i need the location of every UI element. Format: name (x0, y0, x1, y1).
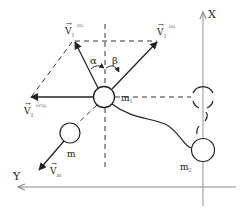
collision-diagram: X Y α β (0, 0, 249, 209)
svg-text:m: m (67, 149, 76, 159)
body-m1 (94, 87, 115, 108)
body-m (60, 123, 80, 143)
label-v1-left-ini: V1ini. → (64, 20, 85, 38)
label-vm: Vm → (49, 160, 62, 178)
vector-v1-right (112, 42, 157, 89)
svg-text:→: → (158, 21, 164, 29)
label-v1-right-ini: V1ini. → (156, 21, 177, 39)
beta-label: β (112, 55, 118, 66)
svg-text:→: → (66, 20, 72, 28)
label-m2: m2 (180, 162, 192, 173)
body-m2 (192, 139, 215, 162)
svg-text:m1: m1 (121, 93, 133, 104)
svg-text:→: → (51, 160, 57, 168)
y-axis-label: Y (12, 170, 21, 183)
x-axis-label: X (208, 8, 216, 21)
connecting-curve (112, 104, 191, 148)
alpha-label: α (90, 55, 97, 66)
label-v1-orig: V1orig. → (23, 100, 48, 118)
label-m: m (67, 149, 76, 159)
svg-text:→: → (25, 100, 31, 108)
label-m1: m1 (121, 93, 133, 104)
svg-text:m2: m2 (180, 162, 192, 173)
